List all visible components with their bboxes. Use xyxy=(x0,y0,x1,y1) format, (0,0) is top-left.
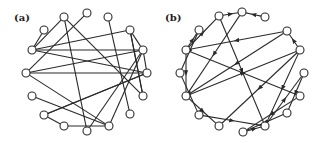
edge xyxy=(132,33,141,46)
graph-node xyxy=(182,46,190,54)
graph-node xyxy=(28,46,36,54)
edge xyxy=(30,51,139,72)
graph-node xyxy=(105,122,113,130)
graph-node xyxy=(60,122,68,130)
graph-node xyxy=(239,128,247,136)
graph-node xyxy=(215,12,223,20)
edge xyxy=(48,117,61,124)
graph-node xyxy=(22,69,30,77)
graph-node xyxy=(195,111,203,119)
graph-node xyxy=(40,111,48,119)
directed-edge xyxy=(246,13,261,16)
graph-node xyxy=(126,26,134,34)
graph-node xyxy=(126,110,134,118)
edge xyxy=(131,34,142,92)
panel-b-label: (b) xyxy=(165,12,181,23)
panel-a-label: (a) xyxy=(14,12,30,23)
graph-node xyxy=(283,27,291,35)
graph-node xyxy=(83,127,91,135)
directed-edge xyxy=(189,33,283,94)
graph-node xyxy=(296,46,304,54)
edge xyxy=(36,51,143,72)
graph-node xyxy=(238,8,246,16)
directed-edge xyxy=(289,34,297,46)
edge xyxy=(35,20,61,47)
directed-edge xyxy=(189,99,216,124)
graph-node xyxy=(283,109,291,117)
graph-node xyxy=(139,92,147,100)
graph-node xyxy=(195,26,203,34)
graph-node xyxy=(60,13,68,21)
graph-node xyxy=(296,92,304,100)
directed-edge xyxy=(221,20,264,123)
directed-edge xyxy=(190,32,283,50)
graph-node xyxy=(143,69,151,77)
directed-edge xyxy=(223,13,238,16)
graph-node xyxy=(261,13,269,21)
panel-a-nodes xyxy=(22,9,151,135)
graph-node xyxy=(83,9,91,17)
graph-node xyxy=(104,13,112,21)
edge xyxy=(65,21,86,127)
graph-node xyxy=(261,122,269,130)
graph-node xyxy=(182,92,190,100)
graph-node xyxy=(139,46,147,54)
graph-node xyxy=(215,122,223,130)
panel-b-directed-graph: (b) xyxy=(165,8,308,136)
panel-a-undirected-graph: (a) xyxy=(14,9,151,135)
edge xyxy=(144,54,147,69)
graph-node xyxy=(28,92,36,100)
graph-node xyxy=(176,69,184,77)
graph-node xyxy=(300,69,308,77)
graph-node xyxy=(40,26,48,34)
directed-edge xyxy=(203,116,261,126)
network-diagram: (a) (b) xyxy=(0,0,318,143)
